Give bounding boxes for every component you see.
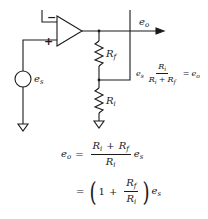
resistor-ground-icon xyxy=(94,121,104,128)
opamp-minus-label: − xyxy=(47,12,56,23)
opamp-plus-label: + xyxy=(44,36,53,47)
gain-equation-1: eo = Ri+Rf Ri es xyxy=(61,140,143,169)
feedback-wire xyxy=(99,10,130,80)
feedback-resistor-label: Rf xyxy=(106,49,116,61)
input-resistor-symbol xyxy=(95,88,103,113)
opamp-triangle xyxy=(57,16,82,46)
feedback-resistor-symbol xyxy=(95,41,103,66)
divider-annotation: es Ri Ri+Rf = eo xyxy=(136,62,200,85)
output-arrow-icon xyxy=(156,28,164,34)
output-label: eo xyxy=(139,17,149,29)
voltage-source-symbol xyxy=(15,71,31,87)
source-label: es xyxy=(34,74,44,86)
divider-junction-dot xyxy=(98,79,101,82)
gain-equation-2: = ( 1 + Rf Ri ) es xyxy=(72,177,161,206)
source-ground-icon xyxy=(18,124,28,131)
input-resistor-label: Ri xyxy=(106,96,116,108)
output-junction-dot xyxy=(98,30,101,33)
